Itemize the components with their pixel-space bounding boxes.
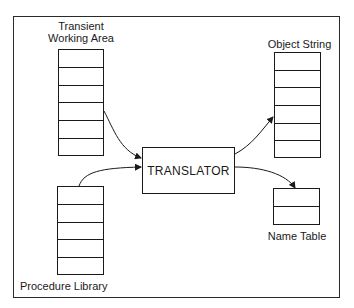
arrow-translator-to-name-table <box>235 167 295 188</box>
arrow-translator-to-object-string <box>235 117 273 154</box>
arrow-procedure-to-translator <box>79 167 141 186</box>
connector-arrows <box>0 0 354 308</box>
arrow-transient-to-translator <box>104 111 141 158</box>
